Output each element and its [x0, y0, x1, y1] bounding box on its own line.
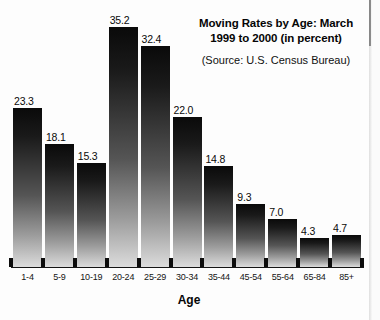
bar-value-label: 32.4	[142, 33, 162, 45]
plot-area: 23.31-418.15-915.310-1935.220-2432.425-2…	[0, 0, 380, 320]
x-axis-tick	[137, 258, 141, 267]
x-axis-tick	[232, 258, 236, 267]
bar-value-label: 35.2	[110, 14, 130, 26]
x-axis-tick	[296, 258, 300, 267]
bar-55-64	[268, 219, 297, 267]
x-axis-tick	[169, 258, 173, 267]
bar-65-84	[300, 238, 329, 267]
bar-value-label: 14.8	[205, 153, 225, 165]
bar-value-label: 15.3	[78, 150, 98, 162]
x-tick-label-85+: 85+	[327, 272, 366, 282]
bar-value-label: 9.3	[237, 191, 251, 203]
bar-35-44	[204, 166, 233, 267]
bar-value-label: 22.0	[174, 104, 194, 116]
bar-20-24	[109, 27, 138, 267]
x-axis-tick	[9, 258, 13, 267]
bar-value-label: 7.0	[269, 206, 283, 218]
x-axis-title: Age	[0, 293, 380, 307]
bar-45-54	[236, 204, 265, 267]
bar-value-label: 4.7	[333, 222, 347, 234]
bar-value-label: 4.3	[301, 225, 315, 237]
bar-10-19	[77, 163, 106, 267]
bar-1-4	[13, 108, 42, 267]
bar-25-29	[141, 46, 170, 267]
x-axis-title-label: Age	[178, 293, 201, 307]
x-axis-tick	[73, 258, 77, 267]
x-axis-tick-end	[360, 258, 364, 267]
x-axis-tick	[105, 258, 109, 267]
bar-value-label: 23.3	[14, 95, 34, 107]
bar-5-9	[45, 144, 74, 267]
chart-screenshot: Moving Rates by Age: March 1999 to 2000 …	[0, 0, 380, 320]
bar-30-34	[173, 117, 202, 267]
x-axis-tick	[264, 258, 268, 267]
x-axis-tick	[41, 258, 45, 267]
x-axis-tick	[200, 258, 204, 267]
bar-value-label: 18.1	[46, 131, 66, 143]
bar-85+	[332, 235, 361, 267]
x-axis-tick	[328, 258, 332, 267]
